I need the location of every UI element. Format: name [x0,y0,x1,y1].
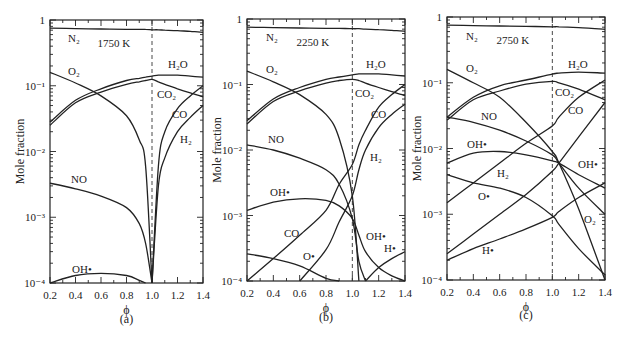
y-tick-label: 10⁻¹ [25,80,45,92]
chart-panel-a: 110⁻¹10⁻²10⁻³10⁻⁴0.20.40.60.81.01.21.4ϕM… [13,14,210,326]
chart-panel-b: 110⁻¹10⁻²10⁻³10⁻⁴0.20.40.60.81.01.21.4ϕM… [210,13,412,324]
panel-caption: (a) [120,312,133,326]
species-label: CO₂ [555,86,574,98]
temperature-label: 2750 K [496,34,529,46]
x-tick-label: 0.4 [266,287,280,299]
x-tick-label: 0.6 [493,286,507,298]
x-tick-label: 1.0 [345,287,359,299]
x-tick-label: 1.4 [598,286,612,298]
species-label: CO [371,108,386,120]
species-label: N₂ [68,32,80,44]
y-tick-label: 10⁻⁴ [421,274,442,286]
x-tick-label: 1.2 [572,286,586,298]
curve-o-radical [247,254,339,281]
x-tick-label: 1.0 [545,286,559,298]
species-label: H• [482,244,494,256]
y-axis-label: Mole fraction [13,119,27,185]
x-tick-label: 1.4 [196,289,210,301]
curve-h2 [447,103,605,254]
y-tick-label: 10⁻¹ [422,77,442,89]
y-tick-label: 10⁻⁴ [24,277,45,289]
x-tick-label: 0.8 [319,287,333,299]
y-tick-label: 10⁻¹ [222,79,242,91]
species-label: NO [481,110,497,122]
curve-oh-radical [50,273,146,283]
panel-caption: (c) [519,308,532,322]
species-label: NO [71,173,87,185]
y-tick-label: 10⁻² [25,146,46,158]
x-tick-label: 0.2 [440,286,454,298]
species-label: N₂ [466,30,478,42]
species-label: O• [478,190,490,202]
x-tick-label: 0.4 [69,289,83,301]
species-label: H₂ [180,133,192,145]
x-tick-label: 0.6 [293,287,307,299]
curve-h2 [152,106,203,284]
y-tick-label: 1 [437,11,443,23]
x-tick-label: 0.8 [120,289,134,301]
curve-h-radical [366,252,406,281]
species-label: CO₂ [157,88,176,100]
curve-no [50,183,152,283]
species-label: NO [268,133,284,145]
species-label: CO [284,227,299,239]
species-label: H₂ [497,167,509,179]
x-tick-label: 0.4 [466,286,480,298]
species-label: CO₂ [355,87,374,99]
y-tick-label: 10⁻² [422,143,443,155]
x-tick-label: 0.6 [94,289,108,301]
species-label: N₂ [266,31,278,43]
y-axis-label: Mole fraction [410,116,424,182]
species-label: O₂ [466,62,478,74]
chart-panel-c: 110⁻¹10⁻²10⁻³10⁻⁴0.20.40.60.81.01.21.4ϕM… [410,11,612,322]
species-label: CO [568,104,583,116]
species-label: OH• [270,186,290,198]
curve-o2 [50,72,152,283]
species-label: OH• [467,138,487,150]
species-label: CO [172,108,187,120]
species-label: H₂O [366,58,386,70]
x-tick-label: 1.4 [398,287,412,299]
x-tick-label: 1.2 [372,287,386,299]
y-tick-label: 10⁻² [222,144,243,156]
temperature-label: 1750 K [97,37,130,49]
curve-n2 [447,25,605,29]
species-label: H₂O [568,58,588,70]
species-label: O₂ [584,213,596,225]
y-tick-label: 10⁻³ [222,210,243,222]
x-tick-label: 0.8 [519,286,533,298]
species-label: O₂ [68,65,80,77]
temperature-label: 2250 K [296,36,329,48]
x-tick-label: 1.2 [171,289,185,301]
y-tick-label: 10⁻⁴ [221,275,242,287]
species-label: H₂O [168,58,188,70]
x-tick-label: 0.2 [43,289,57,301]
species-label: H• [384,242,396,254]
y-tick-label: 10⁻³ [422,208,443,220]
species-label: O• [303,250,315,262]
panel-caption: (b) [319,310,333,324]
species-label: OH• [72,263,92,275]
species-label: OH• [366,230,386,242]
curve-o-radical [447,175,605,275]
y-tick-label: 1 [237,13,243,25]
y-tick-label: 1 [40,14,46,26]
species-label: H₂ [370,151,382,163]
species-label: OH• [578,158,598,170]
x-tick-label: 1.0 [145,289,159,301]
figure: 110⁻¹10⁻²10⁻³10⁻⁴0.20.40.60.81.01.21.4ϕM… [0,0,623,339]
y-axis-label: Mole fraction [210,117,224,183]
x-tick-label: 0.2 [240,287,254,299]
y-tick-label: 10⁻³ [25,211,46,223]
species-label: O₂ [266,63,278,75]
